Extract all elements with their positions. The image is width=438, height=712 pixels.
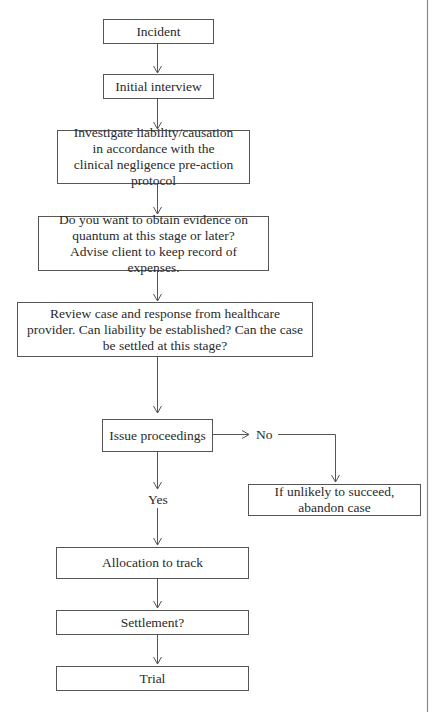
branch-label-no: No (256, 427, 273, 443)
node-allocation-text: Allocation to track (102, 555, 203, 571)
node-review: Review case and response from healthcare… (17, 302, 313, 357)
node-review-text: Review case and response from healthcare… (26, 306, 304, 354)
node-initial-interview-text: Initial interview (115, 79, 202, 95)
node-abandon-text: If unlikely to succeed, abandon case (269, 484, 400, 516)
node-trial-text: Trial (140, 671, 166, 687)
node-allocation: Allocation to track (56, 547, 249, 579)
node-quantum: Do you want to obtain evidence on quantu… (38, 216, 269, 271)
node-trial: Trial (56, 666, 249, 691)
node-issue-proceedings: Issue proceedings (102, 419, 213, 452)
arrow-no-to-abandon (278, 435, 336, 483)
node-issue-proceedings-text: Issue proceedings (109, 428, 205, 444)
node-abandon: If unlikely to succeed, abandon case (248, 484, 421, 516)
node-quantum-text: Do you want to obtain evidence on quantu… (53, 212, 254, 276)
node-incident: Incident (103, 19, 214, 44)
node-incident-text: Incident (136, 24, 180, 40)
node-settlement-text: Settlement? (121, 615, 185, 631)
flowchart: Incident Initial interview Investigate l… (0, 0, 438, 712)
node-investigate: Investigate liability/causation in accor… (57, 130, 250, 184)
branch-label-yes: Yes (148, 492, 168, 508)
node-initial-interview: Initial interview (103, 74, 214, 99)
node-investigate-text: Investigate liability/causation in accor… (72, 125, 235, 189)
node-settlement: Settlement? (56, 610, 249, 635)
